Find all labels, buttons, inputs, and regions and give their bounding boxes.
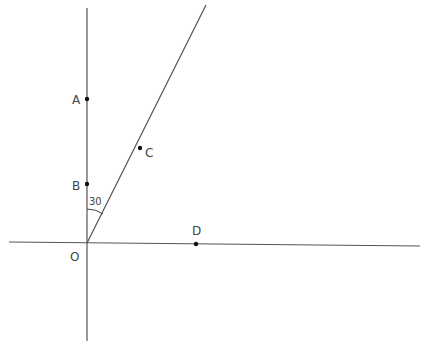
label-c: C (145, 146, 153, 160)
label-a: A (72, 93, 81, 107)
point-b (85, 182, 89, 186)
label-d: D (192, 224, 201, 238)
horizontal-line (9, 242, 420, 246)
label-b: B (72, 179, 80, 193)
point-c (138, 146, 142, 150)
angle-value-label: 30 (89, 196, 102, 207)
point-d (194, 242, 198, 246)
angle-arc (87, 209, 103, 214)
ray-oc (87, 5, 206, 243)
label-o-origin: O (70, 250, 79, 264)
point-a (85, 97, 89, 101)
geometry-diagram: 30 A B C D O (0, 0, 428, 352)
